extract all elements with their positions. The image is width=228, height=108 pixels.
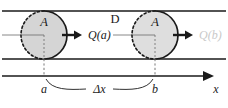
right-disk-area-label: A [150, 15, 159, 29]
delta-x-brace-left [46, 79, 86, 89]
left-flux-label: Q(a) [88, 28, 111, 42]
x-axis-arrow-head [203, 71, 214, 81]
flux-through-pipe-diagram: A Q(a) D A Q(b) [0, 0, 228, 108]
drop-lines [44, 59, 155, 76]
right-flux-arrow-head [185, 31, 193, 40]
left-disk-area-label: A [39, 15, 48, 29]
axis-tick-label-a: a [41, 82, 47, 96]
delta-x-label: Δx [92, 82, 106, 96]
right-disk: A [132, 11, 178, 59]
right-flux-label: Q(b) [199, 28, 222, 42]
delta-x-brace-right [113, 79, 153, 89]
region-label-d: D [110, 12, 119, 26]
x-axis [2, 71, 214, 81]
axis-tick-label-b: b [152, 82, 158, 96]
left-flux-arrow-head [74, 31, 82, 40]
x-axis-label: x [212, 82, 219, 96]
left-disk: A [21, 11, 67, 59]
